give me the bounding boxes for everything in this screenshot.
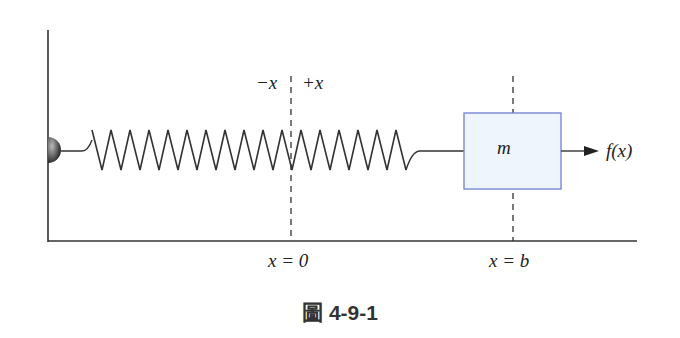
origin-label: x = 0 [268, 250, 308, 272]
spring [92, 130, 406, 170]
anchor-icon [48, 137, 61, 163]
spring-lead-left [61, 140, 92, 151]
neg-x-label: −x [256, 72, 277, 94]
force-label: f(x) [606, 140, 632, 162]
mass-position-label: x = b [489, 250, 529, 272]
mass-box [464, 113, 561, 189]
mass-label: m [497, 137, 511, 159]
pos-x-label: +x [302, 72, 323, 94]
figure-caption: 圖 4-9-1 [0, 296, 680, 326]
spring-lead-right [406, 151, 464, 170]
spring-mass-diagram [0, 0, 680, 338]
force-arrow-icon [584, 146, 599, 156]
